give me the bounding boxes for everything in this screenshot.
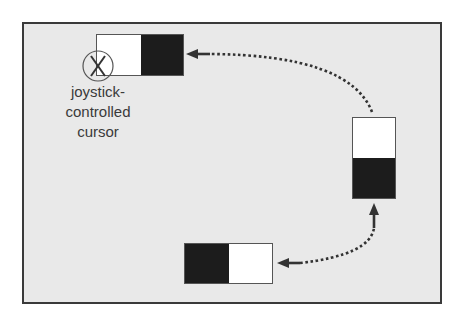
arrows-layer — [0, 0, 460, 311]
arrow-to-right — [277, 203, 379, 268]
arrowhead-up-icon — [369, 203, 379, 215]
arrow-to-top-left — [186, 49, 372, 112]
cursor-label-line: cursor — [48, 122, 148, 142]
arrowhead-left-icon — [277, 258, 289, 268]
arrowhead-left-icon — [186, 49, 198, 59]
circled-x-icon — [83, 51, 113, 81]
cursor-label-line: controlled — [48, 102, 148, 122]
cursor-label-line: joystick- — [48, 82, 148, 102]
cursor-label: joystick- controlled cursor — [48, 82, 148, 142]
